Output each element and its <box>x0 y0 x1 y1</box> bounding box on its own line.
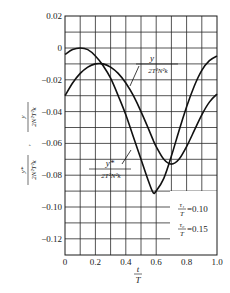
y-label-2-den: 2N²T²k <box>30 106 38 126</box>
x-tick-label: 1.0 <box>211 257 223 267</box>
leader-line <box>122 150 131 164</box>
y-tick-label: −0.12 <box>41 234 62 244</box>
tau0-value: =0.15 <box>187 224 208 234</box>
x-label-den: T <box>135 275 141 285</box>
y-tick-label: 0 <box>58 43 63 53</box>
y-tick-label: −0.10 <box>41 202 62 212</box>
label-y-curve: y 2T²N²k <box>130 53 178 86</box>
x-tick-label: 0.4 <box>120 257 132 267</box>
tau0-num: τ₀ <box>180 221 186 229</box>
y-label-2-num: y <box>19 115 27 120</box>
y-tick-label: 0.02 <box>46 11 62 21</box>
x-label-num: t <box>137 264 140 274</box>
label-y-den: 2T²N²k <box>148 67 168 75</box>
x-axis-label: t T <box>134 264 142 285</box>
tau1-num: τ₁ <box>180 201 185 209</box>
tau1-value: =0.10 <box>187 204 208 214</box>
y-tick-label: −0.08 <box>41 170 62 180</box>
chart: 00.20.40.60.81.00.020−0.02−0.04−0.06−0.0… <box>0 0 230 293</box>
y-axis-label: y* 2N²T²k , y 2N²T²k <box>19 102 38 185</box>
x-tick-label: 0.6 <box>151 257 163 267</box>
y-tick-label: −0.04 <box>41 107 62 117</box>
x-tick-label: 0.8 <box>181 257 193 267</box>
x-tick-label: 0.2 <box>90 257 101 267</box>
leader-line <box>130 66 139 86</box>
y-tick-label: −0.06 <box>41 138 62 148</box>
x-tick-label: 0 <box>63 257 68 267</box>
label-ystar-den: 2T²N²k <box>101 172 121 180</box>
label-ystar-num: y* <box>105 158 115 168</box>
y-tick-label: −0.02 <box>41 75 62 85</box>
y-label-1-den: 2N²T²k <box>30 159 38 179</box>
label-y-num: y <box>149 53 154 63</box>
y-label-sep: , <box>24 144 32 146</box>
parameter-box <box>170 191 217 255</box>
y-label-1-num: y* <box>19 166 27 174</box>
